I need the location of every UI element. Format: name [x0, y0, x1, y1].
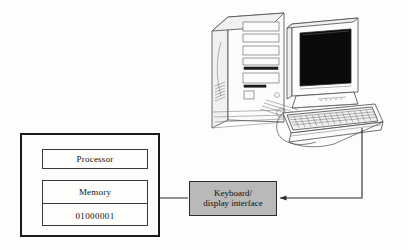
memory-block: Memory 01000001: [42, 180, 148, 226]
interface-label-line-2: display interface: [203, 199, 263, 209]
monitor-icon: [287, 18, 358, 108]
processor-label: Processor: [77, 154, 114, 164]
diagram-canvas: Processor Memory 01000001 Keyboard/ disp…: [0, 0, 408, 250]
memory-label: Memory: [79, 187, 111, 197]
keyboard-display-interface-block: Keyboard/ display interface: [189, 181, 277, 216]
keyboard-icon: [260, 100, 383, 147]
processor-block: Processor: [42, 149, 148, 169]
memory-contents-value: 01000001: [75, 211, 114, 221]
memory-title-cell: Memory: [43, 181, 147, 204]
computer-tower-icon: [212, 13, 286, 128]
memory-value-cell: 01000001: [43, 204, 147, 227]
